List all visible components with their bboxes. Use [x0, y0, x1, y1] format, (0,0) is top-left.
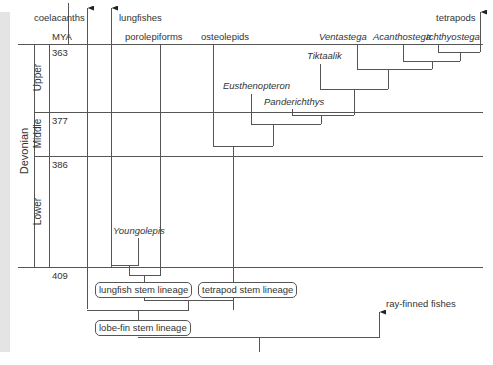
phylogeny-diagram: coelacanths lungfishes MYA porolepiforms… — [0, 0, 493, 365]
label-osteolepids: osteolepids — [201, 31, 249, 42]
mya-363: 363 — [52, 47, 68, 58]
lobefin-stem-lineage: lobe-fin stem lineage — [95, 320, 191, 336]
taxon-youngolepis: Youngolepis — [113, 225, 165, 236]
mya-377: 377 — [52, 115, 68, 126]
taxon-acanthostega: Acanthostega — [373, 31, 431, 42]
lungfish-stem-lineage: lungfish stem lineage — [95, 282, 192, 298]
label-coelacanths: coelacanths — [34, 12, 85, 23]
period-devonian: Devonian — [18, 126, 30, 176]
mya-header: MYA — [52, 31, 72, 42]
label-porolepiforms: porolepiforms — [125, 31, 183, 42]
epoch-lower: Lower — [32, 197, 43, 227]
tree-lines — [0, 0, 493, 365]
tetrapod-stem-lineage: tetrapod stem lineage — [198, 282, 297, 298]
label-tetrapods: tetrapods — [436, 12, 476, 23]
mya-409: 409 — [52, 270, 68, 281]
taxon-tiktaalik: Tiktaalik — [307, 50, 342, 61]
taxon-ventastega: Ventastega — [319, 31, 367, 42]
taxon-panderichthys: Panderichthys — [264, 96, 324, 107]
epoch-upper: Upper — [32, 63, 43, 93]
taxon-ichthyostega: Ichthyostega — [426, 31, 480, 42]
label-ray-finned-fishes: ray-finned fishes — [386, 298, 456, 309]
taxon-eusthenopteron: Eusthenopteron — [223, 80, 290, 91]
mya-386: 386 — [52, 159, 68, 170]
label-lungfishes: lungfishes — [119, 12, 162, 23]
epoch-middle: Middle — [32, 117, 43, 151]
